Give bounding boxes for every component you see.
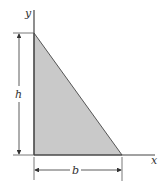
x-axis-label: x [151, 154, 158, 167]
triangle-diagram: y x h b [0, 0, 168, 187]
base-label: b [72, 164, 79, 177]
height-label: h [15, 88, 22, 101]
y-axis-label: y [24, 7, 32, 20]
triangle-shape [34, 33, 122, 155]
